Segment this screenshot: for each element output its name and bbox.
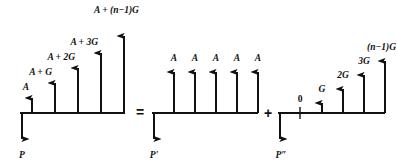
diagram-p-prime: A A A A A P': [150, 53, 261, 160]
resultant-label-p: P: [19, 150, 25, 160]
cash-label-p-1: A: [22, 82, 29, 92]
cash-label-p-prime-3: A: [212, 53, 219, 63]
plus-operator: +: [264, 105, 272, 121]
diagram-p-double-prime: 0 G 2G 3G (n−1)G P″: [275, 42, 396, 160]
cash-label-p-2: A + G: [28, 67, 52, 77]
zero-tick-label: 0: [298, 94, 303, 104]
cash-label-p-prime-2: A: [191, 53, 198, 63]
cash-label-p-prime-4: A: [233, 53, 240, 63]
figure-canvas: A A + G A + 2G A + 3G A + (n−1)G P = A A…: [0, 0, 397, 168]
cash-label-p2-1: G: [319, 84, 326, 94]
cash-label-p-prime-5: A: [254, 53, 261, 63]
cash-label-p-5: A + (n−1)G: [93, 5, 139, 16]
resultant-label-p-double-prime: P″: [275, 150, 286, 160]
cash-flow-diagram-svg: A A + G A + 2G A + 3G A + (n−1)G P = A A…: [0, 0, 397, 168]
cash-label-p2-4: (n−1)G: [367, 42, 396, 53]
diagram-p: A A + G A + 2G A + 3G A + (n−1)G P: [19, 5, 139, 160]
resultant-label-p-prime: P': [150, 150, 159, 160]
cash-label-p-3: A + 2G: [46, 52, 75, 62]
equals-operator: =: [136, 104, 144, 120]
cash-label-p-4: A + 3G: [69, 37, 98, 47]
cash-label-p2-3: 3G: [357, 56, 370, 66]
cash-label-p-prime-1: A: [170, 53, 177, 63]
cash-label-p2-2: 2G: [336, 70, 349, 80]
